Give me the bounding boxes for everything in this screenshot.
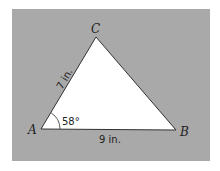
- side-label-ab: 9 in.: [99, 134, 121, 145]
- vertex-label-c: C: [91, 22, 100, 36]
- vertex-label-b: B: [179, 125, 189, 139]
- angle-label-a: 58°: [62, 116, 80, 127]
- vertex-label-a: A: [27, 123, 37, 137]
- triangle-diagram: A B C 7 in. 9 in. 58°: [0, 0, 220, 171]
